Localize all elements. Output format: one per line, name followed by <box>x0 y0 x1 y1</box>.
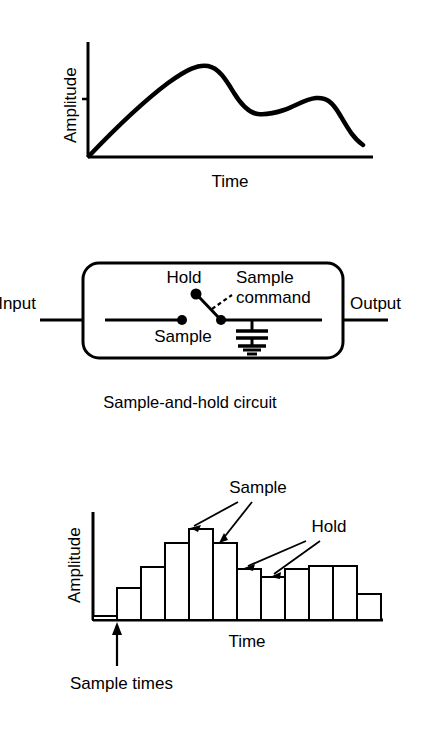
hold-annotation-label: Hold <box>312 517 347 536</box>
sample-annotation-label: Sample <box>229 478 287 497</box>
step-bar-10 <box>309 566 333 620</box>
output-chart-xlabel: Time <box>228 632 265 651</box>
step-bar-3 <box>141 567 165 620</box>
step-bar-9 <box>285 569 309 620</box>
step-bar-2 <box>117 588 141 620</box>
input-waveform-chart: Amplitude Time <box>0 0 442 205</box>
step-bar-4 <box>165 543 189 620</box>
sample-arrow-1-line <box>194 502 238 526</box>
step-bar-5 <box>189 529 213 620</box>
sample-times-arrow-head <box>112 622 122 635</box>
sample-and-hold-circuit-panel: Input Output Sample Hold Sample command <box>0 245 442 435</box>
step-bar-7 <box>237 569 261 620</box>
circuit-schematic: Input Output Sample Hold Sample command <box>0 245 442 435</box>
output-waveform-chart: Amplitude Sample <box>0 470 442 729</box>
input-analog-signal-curve <box>89 66 363 156</box>
step-bar-1 <box>93 616 117 620</box>
circuit-caption: Sample-and-hold circuit <box>103 393 277 411</box>
sample-times-label: Sample times <box>70 674 173 693</box>
step-bar-11 <box>333 566 357 620</box>
sample-terminal-label: Sample <box>154 327 212 346</box>
staircase-steps <box>93 529 381 620</box>
output-waveform-panel: Amplitude Sample <box>0 470 442 729</box>
input-waveform-panel: Amplitude Time <box>0 0 442 205</box>
step-bar-12 <box>357 594 381 620</box>
sample-times-annotation: Sample times <box>70 622 173 693</box>
sample-command-label-line1: Sample <box>236 268 294 287</box>
hold-arrow-1-line <box>248 541 306 566</box>
step-bar-6 <box>213 543 237 620</box>
output-chart-ylabel: Amplitude <box>65 527 84 603</box>
step-bar-8 <box>261 577 285 620</box>
sample-contact-dot <box>177 315 187 325</box>
input-label: Input <box>0 294 36 313</box>
input-chart-ylabel: Amplitude <box>61 67 80 143</box>
sample-command-label-line2: command <box>236 288 311 307</box>
output-label: Output <box>350 294 401 313</box>
input-chart-xlabel: Time <box>211 172 248 191</box>
hold-terminal-label: Hold <box>167 268 202 287</box>
